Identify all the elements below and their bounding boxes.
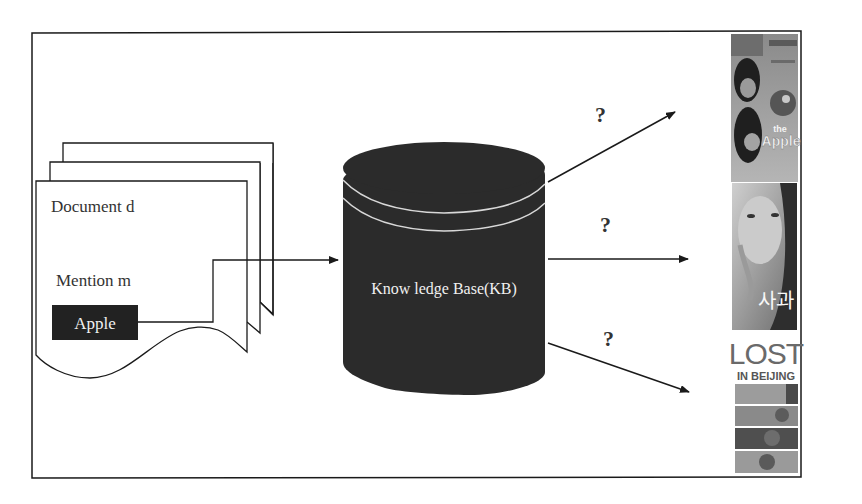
entity-linking-diagram: Document d Mention m Apple Know ledge Ba…	[0, 0, 862, 504]
poster-title-lost: LOST	[729, 337, 804, 370]
candidate-poster-lost-in-beijing: LOST IN BEIJING	[729, 333, 804, 475]
knowledge-base-label: Know ledge Base(KB)	[371, 280, 517, 298]
link-question-1: ?	[595, 102, 606, 127]
link-question-3: ?	[603, 326, 614, 351]
mention-label: Mention m	[56, 271, 131, 290]
poster-title-apple: Apple	[762, 133, 801, 149]
candidate-poster-sagwa: 사과	[732, 183, 797, 330]
candidate-poster-the-apple: the Apple	[731, 34, 801, 182]
link-arrow-3	[548, 343, 689, 392]
poster-subtitle-beijing: IN BEIJING	[737, 370, 795, 382]
document-label: Document d	[51, 197, 135, 216]
knowledge-base-cylinder: Know ledge Base(KB)	[343, 142, 545, 395]
link-arrow-1	[548, 112, 675, 182]
link-question-2: ?	[600, 212, 611, 237]
mention-value: Apple	[74, 314, 116, 333]
poster-title-sagwa: 사과	[758, 290, 794, 312]
